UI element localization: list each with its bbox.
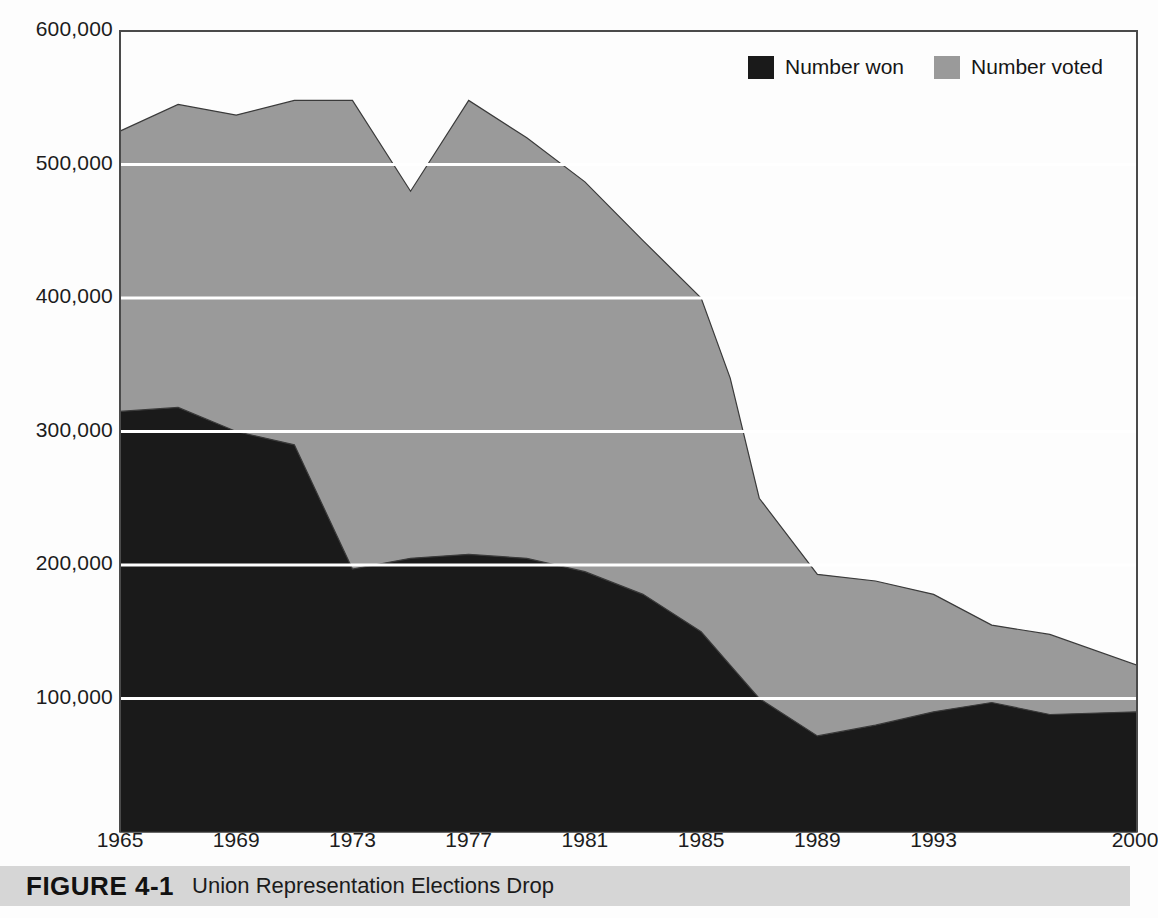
- figure-title: Union Representation Elections Drop: [192, 873, 554, 899]
- legend-entry: Number won: [748, 55, 904, 79]
- y-axis-tick-label: 100,000: [3, 685, 113, 709]
- y-axis-tick-label: 400,000: [3, 284, 113, 308]
- x-axis-tick-label: 1981: [562, 828, 609, 852]
- area-chart-svg: [0, 0, 1158, 862]
- chart-legend: Number wonNumber voted: [748, 55, 1103, 79]
- x-axis-tick-label: 1993: [910, 828, 957, 852]
- x-axis-tick-label: 2000: [1112, 828, 1158, 852]
- y-axis: 100,000200,000300,000400,000500,000600,0…: [0, 0, 113, 862]
- figure-caption: FIGURE 4-1 Union Representation Election…: [0, 866, 1130, 906]
- x-axis-tick-label: 1985: [678, 828, 725, 852]
- x-axis-tick-label: 1989: [794, 828, 841, 852]
- legend-entry: Number voted: [934, 55, 1103, 79]
- filled-square-icon: [934, 56, 960, 79]
- figure-number: FIGURE 4-1: [26, 871, 174, 902]
- legend-label: Number voted: [971, 55, 1103, 79]
- y-axis-tick-label: 200,000: [3, 551, 113, 575]
- legend-label: Number won: [785, 55, 904, 79]
- y-axis-tick-label: 600,000: [3, 17, 113, 41]
- filled-square-icon: [748, 56, 774, 79]
- x-axis-tick-label: 1977: [445, 828, 492, 852]
- y-axis-tick-label: 300,000: [3, 418, 113, 442]
- x-axis: 196519691973197719811985198919932000: [0, 828, 1158, 862]
- x-axis-tick-label: 1965: [97, 828, 144, 852]
- chart-plot-area: 100,000200,000300,000400,000500,000600,0…: [0, 0, 1158, 862]
- y-axis-tick-label: 500,000: [3, 151, 113, 175]
- x-axis-tick-label: 1973: [329, 828, 376, 852]
- figure-container: 100,000200,000300,000400,000500,000600,0…: [0, 0, 1158, 918]
- x-axis-tick-label: 1969: [213, 828, 260, 852]
